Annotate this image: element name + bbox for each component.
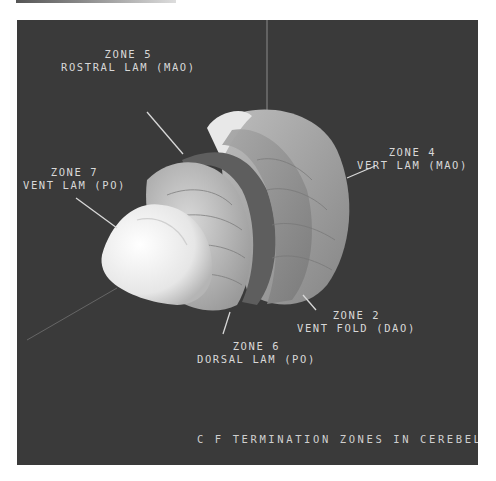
figure-caption: C F TERMINATION ZONES IN CEREBELLAR CTX	[197, 433, 478, 445]
label-zone-4: ZONE 4VERT LAM (MAO)	[357, 146, 468, 172]
zone-number: ZONE 5	[105, 48, 153, 60]
zone-5-pointer	[147, 112, 183, 154]
label-zone-5: ZONE 5ROSTRAL LAM (MAO)	[61, 48, 196, 74]
label-zone-2: ZONE 2VENT FOLD (DAO)	[297, 309, 416, 335]
zone-number: ZONE 7	[51, 166, 99, 178]
zone-number: ZONE 4	[389, 146, 437, 158]
diagonal-axis-line	[27, 288, 117, 340]
zone-6-pointer	[223, 312, 230, 334]
cropped-text-strip	[16, 0, 176, 3]
zone-description: ROSTRAL LAM (MAO)	[61, 61, 196, 73]
zone-description: VERT LAM (MAO)	[357, 159, 468, 171]
zone-description: VENT FOLD (DAO)	[297, 322, 416, 334]
zone-number: ZONE 6	[233, 340, 281, 352]
zone-number: ZONE 2	[333, 309, 381, 321]
label-zone-6: ZONE 6DORSAL LAM (PO)	[197, 340, 316, 366]
zone-7-pointer	[76, 198, 117, 228]
label-zone-7: ZONE 7VENT LAM (PO)	[23, 166, 126, 192]
cerebellum-3d-render	[17, 20, 478, 465]
zone-description: VENT LAM (PO)	[23, 179, 126, 191]
zone-description: DORSAL LAM (PO)	[197, 353, 316, 365]
rendered-figure: ZONE 5ROSTRAL LAM (MAO) ZONE 4VERT LAM (…	[17, 20, 478, 465]
